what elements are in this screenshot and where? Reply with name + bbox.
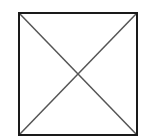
square-x-diagram [0,0,144,139]
